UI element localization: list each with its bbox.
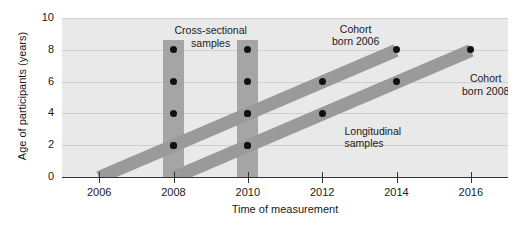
gridline [62, 145, 508, 146]
annotation-cross-sectional: Cross-sectional samples [166, 24, 256, 49]
x-axis-line [62, 177, 508, 178]
plot-area: Cross-sectional samples Cohort born 2006… [62, 18, 508, 177]
y-axis-title: Age of participants (years) [16, 11, 28, 181]
annotation-cohort-born-2008: Cohort born 2008 [441, 72, 508, 97]
annotation-cohort-born-2006: Cohort born 2006 [311, 23, 401, 48]
x-tick-label: 2016 [441, 186, 501, 198]
data-point [319, 78, 326, 85]
cross-sectional-bar [237, 40, 258, 177]
x-tick-mark [174, 172, 175, 183]
x-tick-mark [248, 172, 249, 183]
annotation-longitudinal: Longitudinal samples [344, 125, 401, 150]
x-tick-label: 2010 [218, 186, 278, 198]
x-tick-mark [397, 172, 398, 183]
x-tick-label: 2012 [292, 186, 352, 198]
x-tick-mark [322, 172, 323, 183]
x-tick-mark [471, 172, 472, 183]
data-point [467, 46, 474, 53]
x-axis-title: Time of measurement [62, 203, 508, 215]
gridline [62, 18, 508, 19]
gridline [62, 113, 508, 114]
x-tick-mark [99, 172, 100, 183]
data-point [170, 110, 177, 117]
x-tick-label: 2008 [144, 186, 204, 198]
data-point [319, 110, 326, 117]
x-tick-label: 2006 [69, 186, 129, 198]
x-tick-label: 2014 [367, 186, 427, 198]
age-by-time-cohort-chart: Cross-sectional samples Cohort born 2006… [0, 0, 524, 226]
gridline [62, 50, 508, 51]
data-point [244, 142, 251, 149]
cross-sectional-bar [163, 40, 184, 177]
data-point [170, 142, 177, 149]
